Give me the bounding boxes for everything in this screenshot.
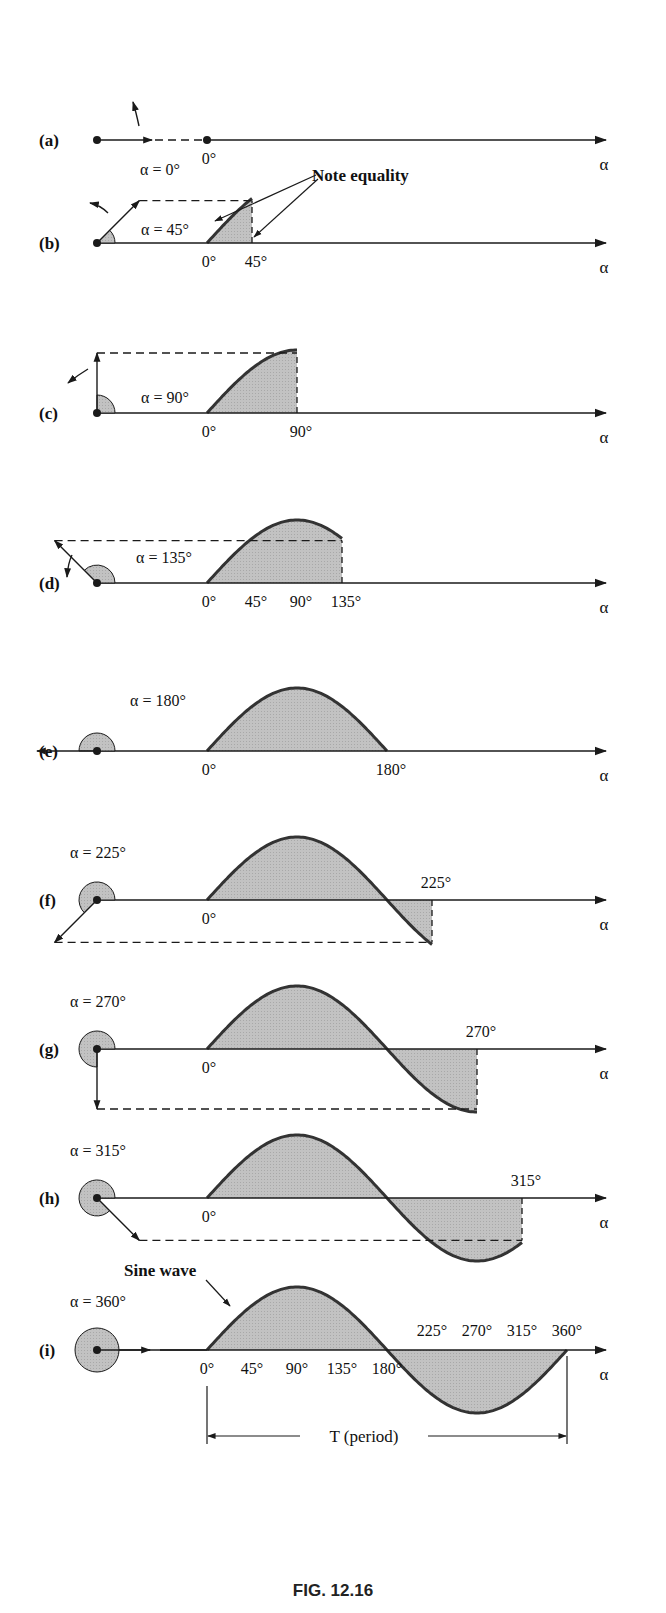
axis-label-alpha: α [600, 1365, 609, 1384]
sine-wave-annotation: Sine wave [124, 1261, 197, 1280]
phasor-vector [55, 541, 97, 583]
angle-label: α = 90° [141, 389, 189, 406]
annotation-arrow [206, 1280, 230, 1306]
phasor-vector [97, 1198, 139, 1240]
angle-label: α = 135° [136, 549, 192, 566]
tick-label: 45° [245, 593, 267, 610]
shaded-area [207, 350, 297, 413]
shaded-area [207, 688, 387, 751]
figure-caption: FIG. 12.16 [293, 1581, 373, 1600]
phasor-pivot-dot [93, 896, 101, 904]
phasor-pivot-dot [93, 409, 101, 417]
panel-label: (a) [39, 131, 59, 150]
tick-label: 0° [202, 1059, 216, 1076]
rotation-direction-arrow [90, 203, 108, 213]
annotation-arrow [254, 179, 318, 237]
tick-label: 0° [202, 593, 216, 610]
tick-label: 360° [552, 1322, 582, 1339]
tick-label: 225° [417, 1322, 447, 1339]
angle-label: α = 45° [141, 221, 189, 238]
tick-label: 45° [241, 1360, 263, 1377]
tick-label: 0° [200, 1360, 214, 1377]
phasor-pivot-dot [93, 1194, 101, 1202]
sine-wave-generation-diagram: α(a)α = 0°0°α(b)α = 45°0°45°Note equalit… [0, 0, 666, 1613]
panel-e: α(e)α = 180°0°180° [37, 688, 609, 785]
panel-label: (b) [39, 234, 60, 253]
rotation-direction-arrow [68, 369, 88, 383]
tick-label: 0° [202, 910, 216, 927]
angle-label: α = 180° [130, 692, 186, 709]
panel-d: α(d)α = 135°0°45°90°135° [39, 520, 609, 617]
tick-label: 315° [507, 1322, 537, 1339]
phasor-pivot-dot [93, 1045, 101, 1053]
axis-label-alpha: α [600, 1064, 609, 1083]
phasor-pivot-dot [93, 136, 101, 144]
phasor-pivot-dot [93, 747, 101, 755]
annotation-arrow [215, 175, 316, 221]
tick-label: 0° [202, 761, 216, 778]
tick-label: 45° [245, 253, 267, 270]
phasor-pivot-dot [93, 579, 101, 587]
axis-label-alpha: α [600, 598, 609, 617]
tick-label: 315° [511, 1172, 541, 1189]
tick-label: 0° [202, 150, 216, 167]
tick-label: 90° [286, 1360, 308, 1377]
angle-label: α = 270° [70, 993, 126, 1010]
axis-label-alpha: α [600, 915, 609, 934]
tick-label: 180° [376, 761, 406, 778]
panel-label: (i) [39, 1341, 55, 1360]
tick-label: 135° [327, 1360, 357, 1377]
phasor-vector [97, 201, 139, 243]
tick-label: 270° [462, 1322, 492, 1339]
angle-label: α = 315° [70, 1142, 126, 1159]
shaded-area [207, 520, 342, 583]
tick-label: 0° [202, 1208, 216, 1225]
wave-origin-dot [203, 136, 211, 144]
axis-label-alpha: α [600, 428, 609, 447]
tick-label: 90° [290, 593, 312, 610]
axis-label-alpha: α [600, 766, 609, 785]
shaded-area [207, 837, 432, 945]
tick-label: 135° [331, 593, 361, 610]
panel-c: α(c)α = 90°0°90° [39, 350, 609, 447]
panel-i: α(i)α = 360°0°45°90°135°180°225°270°315°… [39, 1261, 609, 1446]
panel-label: (g) [39, 1040, 59, 1059]
period-label: T (period) [329, 1427, 398, 1446]
tick-label: 270° [466, 1023, 496, 1040]
phasor-vector [55, 900, 97, 942]
panel-h: α(h)α = 315°0°315° [39, 1135, 609, 1261]
angle-label: α = 360° [70, 1293, 126, 1310]
axis-label-alpha: α [600, 1213, 609, 1232]
panel-label: (c) [39, 404, 58, 423]
panel-label: (d) [39, 574, 60, 593]
panel-f: α(f)α = 225°0°225° [39, 837, 609, 945]
tick-label: 0° [202, 423, 216, 440]
rotation-direction-arrow [67, 555, 72, 577]
tick-label: 225° [421, 874, 451, 891]
angle-label: α = 0° [140, 161, 180, 178]
panel-label: (f) [39, 891, 56, 910]
tick-label: 90° [290, 423, 312, 440]
phasor-pivot-dot [93, 239, 101, 247]
axis-label-alpha: α [600, 258, 609, 277]
note-equality-annotation: Note equality [312, 166, 409, 185]
axis-label-alpha: α [600, 155, 609, 174]
panel-g: α(g)α = 270°0°270° [39, 986, 609, 1112]
panel-label: (h) [39, 1189, 60, 1208]
phasor-pivot-dot [93, 1346, 101, 1354]
tick-label: 0° [202, 253, 216, 270]
rotation-direction-arrow [133, 102, 139, 126]
panel-b: α(b)α = 45°0°45°Note equality [39, 166, 609, 277]
tick-label: 180° [372, 1360, 402, 1377]
angle-label: α = 225° [70, 844, 126, 861]
